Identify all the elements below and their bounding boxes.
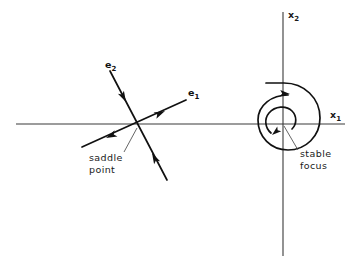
e2-arrow-inward-upper — [118, 91, 129, 104]
saddle-point-group: e2 e1 saddle point — [82, 59, 199, 180]
x1-axis-label: x1 — [330, 109, 341, 123]
eigenvector-e2-label: e2 — [105, 59, 116, 73]
saddle-point-label-line1: saddle — [89, 152, 123, 163]
spiral-arrow-inner-left — [270, 127, 281, 138]
axes-group — [16, 12, 345, 256]
stable-focus-inner-loop-path — [266, 107, 296, 133]
saddle-point-leader-line — [124, 128, 137, 152]
stable-focus-leader-line — [284, 126, 298, 150]
eigenvector-e2-line — [110, 71, 167, 180]
eigenvector-e1-label: e1 — [188, 87, 199, 101]
stable-focus-group: stable focus — [258, 83, 331, 171]
saddle-point-label-line2: point — [89, 164, 115, 175]
phase-portrait-figure: e2 e1 saddle point — [0, 0, 358, 265]
phase-portrait-canvas: e2 e1 saddle point — [0, 0, 358, 265]
x2-axis-label: x2 — [288, 9, 299, 23]
stable-focus-label-line2: focus — [300, 160, 327, 171]
stable-focus-label-line1: stable — [300, 148, 331, 159]
